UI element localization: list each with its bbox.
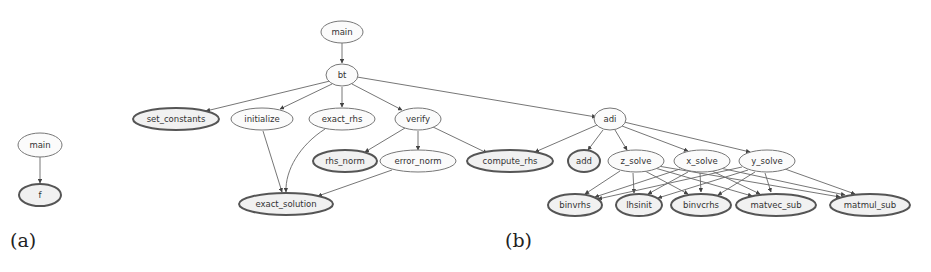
node-adi: adi bbox=[594, 108, 626, 130]
svg-text:adi: adi bbox=[604, 114, 617, 124]
svg-text:compute_rhs: compute_rhs bbox=[483, 156, 538, 166]
svg-text:bt: bt bbox=[338, 70, 347, 80]
node-matvec-sub: matvec_sub bbox=[736, 194, 816, 216]
svg-text:binvcrhs: binvcrhs bbox=[683, 200, 720, 210]
node-error-norm: error_norm bbox=[380, 150, 456, 172]
svg-text:error_norm: error_norm bbox=[394, 156, 441, 166]
panel-b-edges bbox=[206, 43, 855, 199]
svg-text:verify: verify bbox=[406, 114, 430, 124]
node-compute-rhs: compute_rhs bbox=[467, 150, 553, 172]
svg-text:main: main bbox=[331, 27, 352, 37]
node-initialize: initialize bbox=[231, 108, 293, 130]
svg-text:y_solve: y_solve bbox=[751, 156, 783, 166]
svg-text:binvrhs: binvrhs bbox=[559, 200, 591, 210]
node-binvrhs: binvrhs bbox=[548, 194, 602, 216]
node-exact-solution: exact_solution bbox=[239, 193, 333, 215]
svg-text:lhsinit: lhsinit bbox=[626, 200, 652, 210]
node-add: add bbox=[568, 150, 600, 172]
node-main-a: main bbox=[18, 133, 62, 157]
svg-text:main: main bbox=[29, 140, 50, 150]
svg-text:exact_solution: exact_solution bbox=[255, 199, 316, 209]
node-lhsinit: lhsinit bbox=[616, 194, 662, 216]
svg-text:x_solve: x_solve bbox=[686, 156, 718, 166]
svg-text:add: add bbox=[576, 156, 592, 166]
node-f: f bbox=[19, 184, 61, 206]
node-rhs-norm: rhs_norm bbox=[313, 150, 377, 172]
node-set-constants: set_constants bbox=[133, 108, 219, 130]
svg-text:set_constants: set_constants bbox=[147, 114, 206, 124]
node-verify: verify bbox=[395, 108, 441, 130]
svg-text:matvec_sub: matvec_sub bbox=[750, 200, 801, 210]
svg-text:z_solve: z_solve bbox=[621, 156, 652, 166]
node-z-solve: z_solve bbox=[608, 150, 664, 172]
svg-text:rhs_norm: rhs_norm bbox=[325, 156, 365, 166]
svg-text:matmul_sub: matmul_sub bbox=[844, 200, 896, 210]
node-exact-rhs: exact_rhs bbox=[309, 108, 375, 130]
call-graph-figure: main f (a) bbox=[0, 0, 931, 272]
node-y-solve: y_solve bbox=[739, 150, 795, 172]
node-main: main bbox=[321, 21, 363, 43]
caption-b: (b) bbox=[505, 229, 532, 251]
node-matmul-sub: matmul_sub bbox=[830, 194, 910, 216]
node-binvcrhs: binvcrhs bbox=[671, 194, 731, 216]
svg-text:exact_rhs: exact_rhs bbox=[322, 114, 363, 124]
node-bt: bt bbox=[326, 64, 358, 86]
svg-text:initialize: initialize bbox=[244, 114, 279, 124]
caption-a: (a) bbox=[10, 229, 36, 251]
panel-a: main f (a) bbox=[10, 133, 62, 251]
panel-b-nodes: main bt set_constants initialize exact_r… bbox=[133, 21, 910, 216]
node-x-solve: x_solve bbox=[674, 150, 730, 172]
